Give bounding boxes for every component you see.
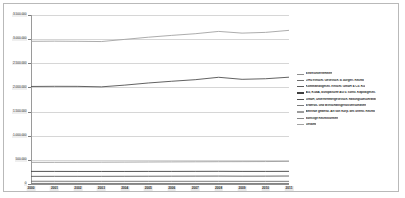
y-tick-1500000: [28, 112, 31, 113]
x-axis-tick-label: 2000: [27, 186, 36, 191]
y-axis-tick-label: 3.000.000: [12, 37, 27, 41]
legend-label: OHG einschl. Gesellsch. d. bürgerl. Rech…: [306, 79, 365, 82]
y-axis-tick-label: 500.000: [15, 158, 27, 162]
x-axis-tick-label: 2011: [285, 186, 294, 191]
x-axis-tick-label: 2007: [191, 186, 200, 191]
legend-color-swatch: [297, 118, 304, 119]
x-axis-line: [31, 184, 289, 185]
x-axis-labels: 2000200120022003200420052006200720082009…: [31, 186, 289, 194]
y-axis-tick-label: 1.500.000: [12, 109, 27, 113]
series-line: [31, 161, 289, 162]
series-line: [31, 30, 289, 41]
legend-color-swatch: [297, 80, 304, 81]
chart-legend: EinzelunternehmenOHG einschl. Gesellsch.…: [297, 71, 401, 128]
x-axis-tick-label: 2009: [238, 186, 247, 191]
legend-color-swatch: [297, 111, 304, 112]
legend-label: Sonstige Rechtsformen: [306, 117, 339, 120]
x-axis-tick-label: 2010: [261, 186, 270, 191]
x-axis-tick-label: 2001: [50, 186, 59, 191]
legend-color-swatch: [297, 74, 304, 75]
y-tick-500000: [28, 160, 31, 161]
y-axis-tick-label: 2.000.000: [12, 85, 27, 89]
plot-area: [31, 15, 289, 184]
y-axis-tick-label: 1.000.000: [12, 134, 27, 138]
legend-color-swatch: [297, 124, 304, 125]
x-axis-tick-label: 2005: [144, 186, 153, 191]
legend-label: GmbH, Unternehmergesellsch. haftungsbesc…: [306, 98, 377, 101]
chart-frame: 2000200120022003200420052006200720082009…: [3, 3, 399, 192]
x-axis-tick-label: 2002: [74, 186, 83, 191]
x-axis-tick-label: 2008: [214, 186, 223, 191]
x-axis-tick-label: 2003: [97, 186, 106, 191]
legend-label: AG, KGaA, Europäische AG u. sonst. Kapit…: [306, 91, 376, 94]
legend-color-swatch: [297, 105, 304, 106]
series-line: [31, 77, 289, 87]
y-tick-2000000: [28, 87, 31, 88]
x-axis-tick-label: 2004: [120, 186, 129, 191]
y-axis-tick-label: 2.500.000: [12, 61, 27, 65]
legend-item[interactable]: Gesamt: [297, 121, 401, 127]
y-tick-2500000: [28, 63, 31, 64]
legend-color-swatch: [297, 86, 304, 87]
y-axis-tick-label: 3.500.000: [12, 13, 27, 17]
y-tick-3000000: [28, 39, 31, 40]
legend-color-swatch: [297, 99, 304, 100]
x-axis-tick-label: 2006: [167, 186, 176, 191]
series-lines: [31, 15, 289, 184]
legend-label: Betriebe gewerbl. Art von Körp. des öffe…: [306, 110, 376, 113]
legend-label: Gesamt: [306, 123, 317, 126]
legend-label: Einzelunternehmen: [306, 72, 333, 75]
legend-label: Kommanditgesell. einschl. GmbH & Co. KG: [306, 85, 366, 88]
legend-label: Erwerbs- und Wirtschaftsgenossenschaften: [306, 104, 366, 107]
y-tick-1000000: [28, 136, 31, 137]
y-axis-tick-label: 0: [24, 182, 27, 186]
y-tick-3500000: [28, 15, 31, 16]
legend-color-swatch: [297, 92, 304, 93]
